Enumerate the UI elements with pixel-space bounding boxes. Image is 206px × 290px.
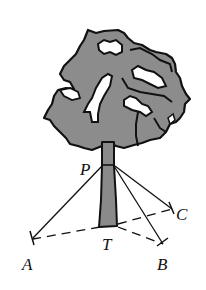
tree-trunk xyxy=(99,142,117,227)
label-c: C xyxy=(176,205,188,224)
line-pa xyxy=(33,166,102,238)
tree-canopy xyxy=(44,30,190,150)
line-tb xyxy=(118,227,163,244)
line-pb xyxy=(114,166,163,244)
tick-b xyxy=(157,238,168,246)
label-t: T xyxy=(102,235,113,254)
tree-diagram: P T A B C xyxy=(0,0,206,290)
label-a: A xyxy=(21,255,33,274)
line-ta xyxy=(33,227,100,239)
line-pc xyxy=(115,166,172,209)
label-b: B xyxy=(157,255,168,274)
label-p: P xyxy=(79,160,90,179)
